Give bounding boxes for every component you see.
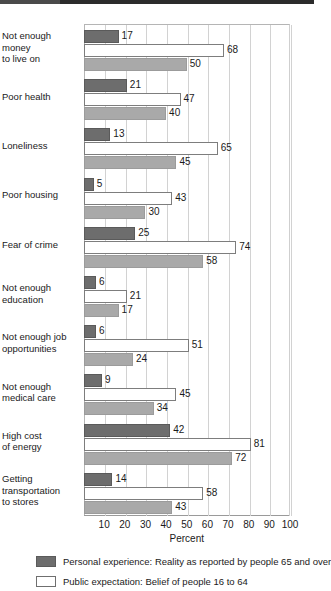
category-label-line: Not enough [2, 381, 80, 393]
category-label: Gettingtransportationto stores [2, 473, 80, 508]
category-label-line: Getting [2, 473, 80, 485]
bar-dark [84, 178, 94, 191]
legend-item[interactable]: Public expectation: Belief of people 16 … [36, 574, 314, 590]
bar-gray [84, 402, 154, 415]
bar-dark [84, 79, 127, 92]
category-label: Loneliness [2, 140, 80, 152]
x-tick-70: 70 [222, 518, 233, 531]
legend-item[interactable]: Personal experience: Reality as reported… [36, 554, 314, 570]
category-label-line: Fear of crime [2, 239, 80, 251]
bar-value-label: 25 [135, 226, 149, 240]
category-label-line: opportunities [2, 343, 80, 355]
legend-swatch-white [36, 576, 56, 587]
bar-value-label: 6 [96, 324, 105, 338]
gridline-100 [291, 25, 292, 516]
bar-value-label: 51 [189, 338, 203, 352]
category-label-line: Poor health [2, 91, 80, 103]
bar-value-label: 81 [251, 437, 265, 451]
x-tick-80: 80 [243, 518, 254, 531]
bar-gray [84, 353, 134, 366]
bar-value-label: 43 [172, 191, 186, 205]
category-label-line: to stores [2, 496, 80, 508]
bar-white [84, 93, 181, 106]
chart-legend: Personal experience: Reality as reported… [36, 554, 314, 591]
category-label-line: to live on [2, 53, 80, 65]
category-label-line: High cost [2, 430, 80, 442]
category-label: Not enougheducation [2, 282, 80, 305]
bar-value-label: 42 [170, 423, 184, 437]
bar-value-label: 17 [119, 29, 133, 43]
x-tick-40: 40 [161, 518, 172, 531]
bar-value-label: 13 [110, 127, 124, 141]
bar-value-label: 43 [172, 500, 186, 514]
category-label-line: education [2, 294, 80, 306]
bar-white [84, 142, 218, 155]
bar-value-label: 68 [224, 43, 238, 57]
legend-label: Public expectation: Belief of people 16 … [63, 574, 248, 589]
category-label: Poor health [2, 91, 80, 103]
bar-value-label: 58 [203, 486, 217, 500]
bar-dark [84, 325, 96, 338]
category-label: Not enoughmedical care [2, 381, 80, 404]
bar-white [84, 44, 224, 57]
bar-gray [84, 58, 187, 71]
bar-value-label: 14 [112, 472, 126, 486]
bar-gray [84, 452, 233, 465]
bar-value-label: 58 [203, 254, 217, 268]
bar-value-label: 21 [127, 78, 141, 92]
x-tick-50: 50 [181, 518, 192, 531]
bar-value-label: 30 [145, 205, 159, 219]
category-label-line: Poor housing [2, 189, 80, 201]
bar-white [84, 487, 204, 500]
bar-value-label: 45 [176, 155, 190, 169]
bar-dark [84, 276, 96, 289]
legend-label: Personal experience: Reality as reported… [63, 554, 331, 569]
x-axis-line [84, 515, 290, 516]
x-axis-title: Percent [84, 533, 291, 544]
bar-value-label: 50 [187, 57, 201, 71]
category-label-line: money [2, 42, 80, 54]
category-label: Poor housing [2, 189, 80, 201]
bar-white [84, 438, 251, 451]
bar-value-label: 47 [181, 92, 195, 106]
legend-swatch-dark [36, 556, 56, 567]
x-axis-tick-labels: 102030405060708090100 [0, 518, 314, 532]
category-label-line: medical care [2, 392, 80, 404]
category-label-line: Not enough [2, 282, 80, 294]
bar-value-label: 65 [218, 141, 232, 155]
bar-gray [84, 156, 177, 169]
category-label-line: of energy [2, 441, 80, 453]
bar-value-label: 6 [96, 275, 105, 289]
bar-gray [84, 501, 173, 514]
bar-value-label: 21 [127, 289, 141, 303]
category-label: Not enoughmoneyto live on [2, 30, 80, 65]
bar-white [84, 192, 173, 205]
x-tick-30: 30 [140, 518, 151, 531]
bar-value-label: 72 [232, 451, 246, 465]
bar-gray [84, 255, 204, 268]
bar-dark [84, 30, 119, 43]
x-tick-60: 60 [202, 518, 213, 531]
bar-gray [84, 107, 167, 120]
bar-dark [84, 424, 171, 437]
category-label-line: transportation [2, 485, 80, 497]
bar-value-label: 5 [94, 177, 103, 191]
category-label-line: Not enough [2, 30, 80, 42]
bar-dark [84, 128, 111, 141]
category-label: High costof energy [2, 430, 80, 453]
bar-value-label: 40 [166, 106, 180, 120]
bar-white [84, 290, 127, 303]
bar-value-label: 17 [119, 303, 133, 317]
x-tick-10: 10 [99, 518, 110, 531]
x-tick-20: 20 [119, 518, 130, 531]
category-label-line: Loneliness [2, 140, 80, 152]
bar-value-label: 74 [236, 240, 250, 254]
bar-white [84, 241, 237, 254]
category-label-line: Not enough job [2, 331, 80, 343]
bar-value-label: 34 [154, 401, 168, 415]
bar-dark [84, 473, 113, 486]
category-label: Not enough jobopportunities [2, 331, 80, 354]
category-label: Fear of crime [2, 239, 80, 251]
x-tick-90: 90 [264, 518, 275, 531]
